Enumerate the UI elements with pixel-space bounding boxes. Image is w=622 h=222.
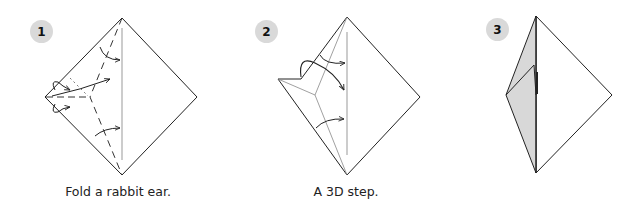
step-1-figure bbox=[45, 18, 197, 175]
step-number: 1 bbox=[37, 25, 45, 39]
step-3-figure bbox=[506, 16, 612, 173]
step-badge-3: 3 bbox=[486, 18, 509, 41]
origami-diagram: 1 2 3 Fold a rabbit ear. A 3D step. bbox=[0, 0, 622, 222]
step-2-caption: A 3D step. bbox=[313, 184, 378, 199]
step-badge-2: 2 bbox=[255, 20, 278, 43]
step-1-caption: Fold a rabbit ear. bbox=[65, 184, 171, 199]
step-number: 2 bbox=[262, 25, 270, 39]
step-2-figure bbox=[278, 17, 420, 175]
step-badge-1: 1 bbox=[30, 20, 53, 43]
step-number: 3 bbox=[493, 23, 501, 37]
